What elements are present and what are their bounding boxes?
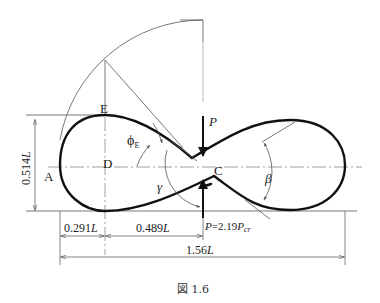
label-load-top: P (208, 114, 217, 129)
label-point-e: E (100, 101, 108, 116)
construction-arc (60, 20, 203, 140)
label-load-bottom: P=2.19Pcr (204, 220, 251, 234)
label-dim-total-width: 1.56L (186, 243, 214, 257)
label-angle-phi: ϕE (127, 133, 139, 150)
label-point-a: A (44, 169, 54, 184)
angle-arcs (137, 123, 272, 207)
label-dim-mid-width: 0.489L (136, 221, 170, 235)
label-dim-height: 0.514L (19, 151, 33, 185)
label-point-d: D (103, 156, 112, 171)
construction-lines (105, 60, 183, 148)
label-angle-gamma: γ (157, 179, 163, 194)
label-angle-beta: β (264, 171, 272, 186)
label-dim-left-width: 0.291L (64, 221, 98, 235)
tangent-lines (170, 122, 295, 219)
elastica-diagram: E D A C ϕE γ β P P=2.19Pcr 0.514L 0.291L… (0, 0, 380, 303)
reference-lines (26, 115, 357, 211)
label-point-c: C (214, 163, 223, 178)
figure-caption: 図 1.6 (177, 283, 209, 296)
